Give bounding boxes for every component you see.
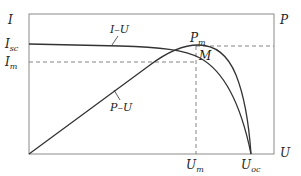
pu-curve-label: P–U (109, 101, 133, 114)
pu-leader (114, 90, 120, 100)
y-axis-label-i: I (7, 13, 13, 27)
pu-curve (29, 45, 251, 154)
um-label: Um (186, 158, 204, 174)
plot-frame (29, 14, 274, 154)
im-label: Im (4, 55, 18, 71)
iu-leader (112, 36, 118, 45)
x-axis-label-u: U (280, 146, 291, 160)
iu-curve (29, 44, 251, 154)
iu-curve-label: I–U (109, 23, 130, 36)
pm-label: Pm (189, 31, 206, 47)
uoc-label: Uoc (241, 158, 261, 174)
m-point-label: M (198, 49, 212, 63)
y-axis-label-p: P (279, 13, 289, 27)
isc-label: Isc (4, 37, 19, 53)
iu-pu-diagram: I P U Isc Im Um Uoc I–U P–U Pm M (0, 0, 301, 176)
